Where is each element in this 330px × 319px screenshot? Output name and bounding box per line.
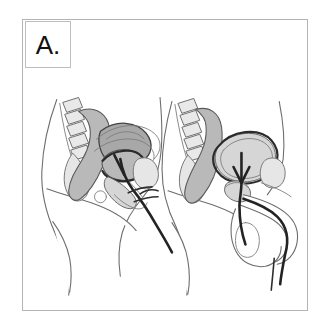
panel-label-box: A. [25, 21, 71, 68]
female-figure [42, 97, 172, 295]
male-figure [162, 98, 298, 295]
figure-panel: A. [22, 19, 308, 311]
anal-marker [94, 191, 106, 203]
pubic-symphysis [133, 158, 158, 189]
panel-label-text: A. [36, 32, 61, 58]
